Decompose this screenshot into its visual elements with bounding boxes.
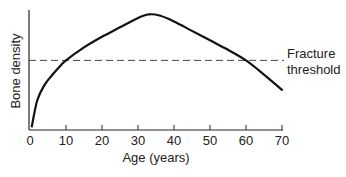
bone-density-chart: 010203040506070 Bone density Age (years)… — [0, 0, 346, 177]
x-tick-label: 50 — [203, 133, 217, 148]
x-tick-label: 10 — [59, 133, 73, 148]
axes — [29, 10, 283, 130]
x-ticks: 010203040506070 — [26, 125, 289, 148]
chart-svg: 010203040506070 Bone density Age (years)… — [0, 0, 346, 177]
threshold-label-line2: threshold — [287, 62, 340, 77]
bone-density-curve — [32, 14, 282, 126]
x-axis-label: Age (years) — [122, 150, 189, 165]
x-tick-label: 20 — [95, 133, 109, 148]
curve-path — [32, 14, 282, 126]
y-axis-label: Bone density — [8, 33, 23, 109]
x-tick-label: 0 — [26, 133, 33, 148]
threshold-label-line1: Fracture — [287, 46, 335, 61]
x-tick-label: 60 — [239, 133, 253, 148]
x-tick-label: 70 — [275, 133, 289, 148]
x-tick-label: 40 — [167, 133, 181, 148]
x-tick-label: 30 — [131, 133, 145, 148]
